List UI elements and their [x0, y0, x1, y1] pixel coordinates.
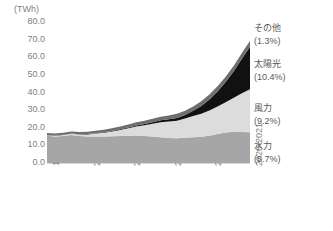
series-label-name: 太陽光	[254, 58, 286, 71]
y-axis-tick-label: 80.0	[3, 16, 45, 26]
y-axis-tick-label: 30.0	[3, 104, 45, 114]
series-label-name: その他	[254, 22, 281, 35]
series-label-1: 風力(9.2%)	[254, 102, 281, 128]
y-axis-tick-label: 70.0	[3, 34, 45, 44]
series-label-name: 風力	[254, 102, 281, 115]
series-label-percent: (1.3%)	[254, 35, 281, 48]
y-axis-tick-label: 10.0	[3, 139, 45, 149]
y-axis: 0.010.020.030.040.050.060.070.080.0	[0, 0, 45, 231]
series-label-0: 水力(5.7%)	[254, 140, 281, 166]
series-label-name: 水力	[254, 140, 281, 153]
y-axis-tick-label: 50.0	[3, 69, 45, 79]
stacked-area-svg	[47, 22, 250, 163]
series-label-3: その他(1.3%)	[254, 22, 281, 48]
series-label-percent: (10.4%)	[254, 71, 286, 84]
y-axis-tick-label: 0.0	[3, 157, 45, 167]
y-axis-tick-label: 20.0	[3, 122, 45, 132]
series-label-percent: (5.7%)	[254, 153, 281, 166]
series-label-percent: (9.2%)	[254, 115, 281, 128]
y-axis-tick-label: 60.0	[3, 51, 45, 61]
area-series-0	[47, 132, 250, 163]
plot-area	[47, 22, 250, 163]
series-label-2: 太陽光(10.4%)	[254, 58, 286, 84]
chart-root: (TWh) 0.010.020.030.040.050.060.070.080.…	[0, 0, 333, 231]
y-axis-tick-label: 40.0	[3, 87, 45, 97]
